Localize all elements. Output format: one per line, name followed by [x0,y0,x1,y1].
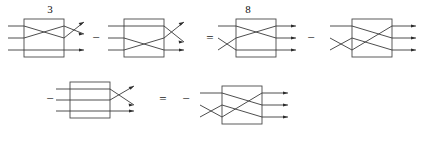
arrowhead-icon [291,37,296,40]
arrowhead-icon [79,49,84,52]
operator-minus-1: − [92,30,99,45]
arrowhead-icon [283,116,288,119]
strand-cross-b [352,26,392,50]
tangle-diagram-1 [8,19,84,57]
operator-minus-3: − [46,91,53,106]
tangle-box [24,19,64,57]
operator-minus-4: − [182,91,189,106]
strand-cross-a [222,93,262,105]
operator-equals-2: = [159,91,166,106]
arrowhead-icon [283,104,288,107]
arrowhead-icon [179,49,184,52]
arrowhead-icon [411,37,416,40]
arrowhead-icon [283,92,288,95]
arrowhead-icon [129,86,134,90]
tangle-diagram-6 [200,86,288,124]
strand-out-cross-a [164,26,184,42]
tangle-diagram-2 [108,19,184,57]
operator-equals-1: = [206,30,213,45]
tangle-diagram-5 [56,82,134,118]
strand-cross-b [222,93,262,117]
arrowhead-icon [411,49,416,52]
arrowhead-icon [291,49,296,52]
tangle-diagram-3 [218,19,296,57]
tangle-diagram-4 [330,19,416,57]
arrowhead-icon [291,25,296,28]
tangle-box [124,19,164,57]
strand-cross-a [352,26,392,38]
coefficient-label-8: 8 [245,3,251,15]
equation-figure: 3 − = 8 [0,0,430,151]
coefficient-label-3: 3 [47,3,53,15]
arrowhead-icon [411,25,416,28]
strand-cross-c [352,38,392,50]
strand-cross-c [222,105,262,117]
arrowhead-icon [129,110,134,113]
operator-minus-2: − [307,30,314,45]
tangle-box [236,19,276,57]
strand-out-cross-a [110,89,134,105]
